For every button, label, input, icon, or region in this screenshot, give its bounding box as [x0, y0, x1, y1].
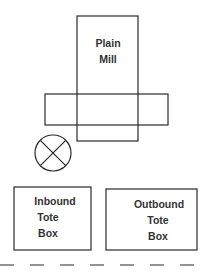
mill-label-line1: Plain	[95, 37, 120, 49]
outbound-label-line3: Box	[148, 230, 168, 242]
outbound-label-line1: Outbound	[134, 198, 184, 210]
mill-label-line2: Mill	[99, 53, 117, 65]
workstation-layout-diagram: Plain Mill Inbound Tote Box Outbound Tot…	[0, 0, 202, 277]
inbound-label-line1: Inbound	[34, 195, 75, 207]
mill-table	[45, 94, 168, 125]
inbound-label-line2: Tote	[37, 211, 59, 223]
outbound-label-line2: Tote	[147, 214, 169, 226]
plain-mill-body	[77, 16, 138, 141]
operator-position-icon	[35, 135, 71, 171]
inbound-label-line3: Box	[38, 227, 58, 239]
